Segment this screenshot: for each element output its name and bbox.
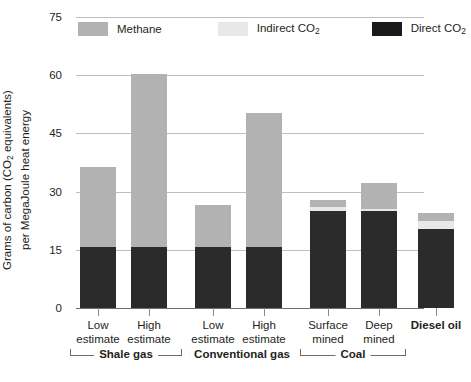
x-tick-coal-surface	[328, 308, 329, 316]
legend-item-methane: Methane	[78, 22, 162, 36]
bar-shale-high	[131, 74, 167, 308]
x-tick-coal-deep	[379, 308, 380, 316]
y-tick-75: 75	[18, 11, 62, 23]
legend-item-direct-co2: Direct CO2	[372, 22, 466, 36]
x-tick-shale-low	[98, 308, 99, 316]
bar-segment-methane	[131, 74, 167, 247]
bar-segment-direct-co2	[361, 211, 397, 308]
bar-segment-methane	[246, 113, 282, 247]
bar-diesel-oil	[418, 213, 454, 308]
x-tick-shale-high	[149, 308, 150, 316]
legend-item-indirect-co2: Indirect CO2	[218, 22, 320, 36]
bar-segment-indirect-co2	[361, 209, 397, 211]
x-label-line2: mined	[339, 333, 419, 347]
bar-segment-methane	[195, 205, 231, 247]
bar-conventional-low	[195, 205, 231, 308]
plot-area	[76, 17, 424, 308]
bar-segment-direct-co2	[131, 247, 167, 308]
legend-label-indirect-co2: Indirect CO	[257, 22, 315, 34]
bar-segment-methane	[310, 200, 346, 207]
x-tick-conventional-high	[264, 308, 265, 316]
bar-segment-direct-co2	[310, 211, 346, 308]
methane-swatch-icon	[78, 22, 108, 36]
bar-segment-direct-co2	[246, 247, 282, 308]
bar-segment-direct-co2	[80, 247, 116, 308]
gridline-60	[76, 75, 424, 76]
group-label-coal: Coal	[336, 348, 371, 360]
group-label-shale-gas: Shale gas	[94, 348, 158, 360]
bar-segment-methane	[361, 183, 397, 209]
bar-segment-methane	[418, 213, 454, 221]
bar-shale-low	[80, 167, 116, 308]
bar-segment-methane	[80, 167, 116, 247]
bar-segment-indirect-co2	[418, 221, 454, 229]
legend-label-methane: Methane	[117, 23, 162, 35]
x-label-line1: Diesel oil	[396, 319, 471, 333]
bar-segment-direct-co2	[418, 229, 454, 308]
y-tick-30: 30	[18, 186, 62, 198]
legend-sub-indirect: 2	[315, 26, 320, 36]
bar-segment-indirect-co2	[310, 207, 346, 211]
group-label-conventional-gas: Conventional gas	[189, 348, 295, 360]
legend-sub-direct: 2	[461, 26, 466, 36]
x-tick-diesel-oil	[436, 308, 437, 316]
y-tick-15: 15	[18, 244, 62, 256]
y-tick-45: 45	[18, 127, 62, 139]
bar-coal-surface-mined	[310, 200, 346, 308]
legend: Methane Indirect CO2 Direct CO2	[78, 22, 466, 36]
bar-coal-deep-mined	[361, 183, 397, 308]
x-label-diesel-oil: Diesel oil	[396, 319, 471, 333]
gridline-75	[76, 17, 424, 18]
axis-baseline	[76, 308, 424, 309]
legend-label-direct-co2: Direct CO	[411, 22, 461, 34]
bar-segment-direct-co2	[195, 247, 231, 308]
indirect-co2-swatch-icon	[218, 22, 248, 36]
x-tick-conventional-low	[213, 308, 214, 316]
y-tick-0: 0	[18, 302, 62, 314]
y-tick-60: 60	[18, 69, 62, 81]
direct-co2-swatch-icon	[372, 22, 402, 36]
bar-conventional-high	[246, 113, 282, 308]
